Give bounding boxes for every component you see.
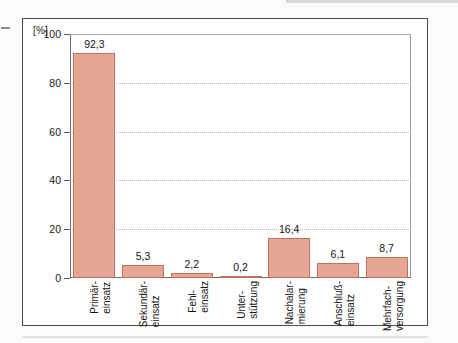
y-axis-tick-label: 0 [55,272,61,284]
x-axis-label-line2: versorgung [393,281,405,331]
scan-artifact-bottom-edge [22,336,428,338]
bar-chart: [%] 020406080100 92,35,32,20,216,46,18,7… [23,19,429,327]
x-axis-label: Anschluß-einsatz [333,281,356,326]
x-axis-label: Sekundär-einsatz [138,281,161,327]
scan-artifact-tick [1,27,10,29]
x-axis-label-line2: mierung [296,281,308,324]
scan-artifact-top-edge [286,0,458,3]
y-axis-tick-mark [64,132,70,133]
y-axis-tick-label: 100 [43,28,61,40]
bar [317,263,359,278]
x-axis-label: Mehrfach-versorgung [382,281,405,331]
x-axis-label: Fehl-einsatz [187,281,210,313]
bar-value-label: 0,2 [233,261,248,273]
bar-value-label: 5,3 [136,250,151,262]
x-axis-label-line2: einsatz [101,281,113,314]
x-axis-label-line1: Sekundär- [138,281,150,327]
plot-area: 020406080100 92,35,32,20,216,46,18,7 [70,34,411,278]
y-axis-tick-mark [64,180,70,181]
y-axis-tick-mark [64,34,70,35]
x-axis-label-line1: Anschluß- [333,281,345,326]
bar [220,276,262,278]
x-axis-label: Unter-stützung [236,281,259,319]
x-axis-label-line1: Mehrfach- [382,281,394,331]
x-axis-label: Primär-einsatz [89,281,112,314]
figure-frame: [%] 020406080100 92,35,32,20,216,46,18,7… [22,18,428,326]
x-axis-label-line2: einsatz [150,281,162,327]
x-axis-label-line1: Fehl- [187,281,199,313]
gridline [70,229,411,230]
x-axis-label-line1: Unter- [236,281,248,319]
bar [268,238,310,278]
x-axis-label-line2: einsatz [344,281,356,326]
y-axis-tick-label: 40 [49,174,61,186]
gridline [70,34,411,35]
bar-value-label: 8,7 [379,242,394,254]
bar [366,257,408,278]
bar [122,265,164,278]
gridline [70,83,411,84]
x-axis-label-line2: stützung [247,281,259,319]
x-axis-label: Nachalar-mierung [284,281,307,324]
gridline [70,180,411,181]
bar [171,273,213,278]
plot-border [70,34,411,278]
y-axis-tick-mark [64,83,70,84]
bar [73,53,115,278]
y-axis-tick-mark [64,229,70,230]
x-axis-label-line2: einsatz [198,281,210,313]
x-axis-label-line1: Primär- [89,281,101,314]
bar-value-label: 16,4 [279,223,299,235]
y-axis-tick-mark [64,278,70,279]
bar-value-label: 6,1 [331,248,346,260]
y-axis-tick-label: 60 [49,126,61,138]
x-axis-label-line1: Nachalar- [284,281,296,324]
y-axis-tick-label: 20 [49,223,61,235]
bar-value-label: 92,3 [84,38,104,50]
gridline [70,132,411,133]
y-axis-tick-label: 80 [49,77,61,89]
bar-value-label: 2,2 [184,258,199,270]
page-root: [%] 020406080100 92,35,32,20,216,46,18,7… [0,0,458,343]
